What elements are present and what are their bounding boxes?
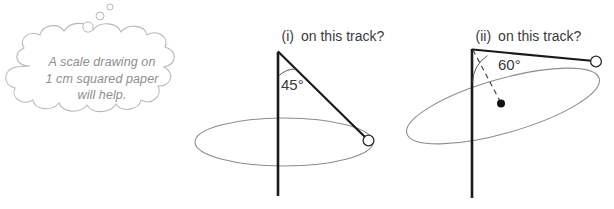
angle-label-45: 45°	[281, 76, 304, 93]
thought-bubble-puff-medium	[96, 12, 104, 20]
ball-i	[363, 135, 374, 146]
caption-figure-ii: (ii)on this track?	[460, 12, 581, 60]
ball-ii	[591, 56, 602, 67]
caption-number-i: (i)	[282, 28, 294, 44]
figure-i-group	[195, 52, 374, 196]
track-ellipse-i	[195, 118, 373, 166]
thought-bubble-puff-large	[83, 22, 93, 32]
caption-label-ii: on this track?	[498, 28, 581, 44]
caption-figure-i: (i)on this track?	[266, 12, 384, 60]
thought-bubble-puff-small	[107, 4, 113, 10]
angle-arc-i	[279, 69, 296, 76]
diagram-canvas: A scale drawing on 1 cm squared paper wi…	[0, 0, 614, 209]
caption-label-i: on this track?	[301, 28, 384, 44]
angle-label-60: 60°	[498, 56, 521, 73]
centre-dot-ii	[497, 100, 505, 108]
thought-bubble-text: A scale drawing on 1 cm squared paper wi…	[18, 54, 186, 104]
string-i	[279, 52, 367, 138]
caption-number-ii: (ii)	[476, 28, 492, 44]
